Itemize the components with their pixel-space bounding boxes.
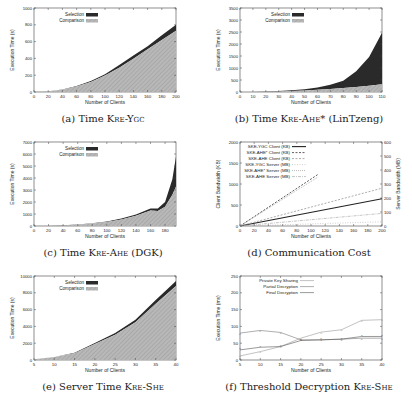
legend-swatch-comparison [292,19,304,23]
x-tick-label: 30 [339,362,344,367]
y-axis-label: Execution Time (s) [9,163,15,205]
series-marker: + [381,317,384,322]
caption-f-prefix: (f) Threshold Decryption [225,381,353,392]
legend-swatch-selection [292,13,304,17]
caption-b-suffix: (LinTzeng) [325,113,383,124]
caption-f-method: Kre-She [353,381,392,392]
legend-swatch-selection [86,147,98,151]
x-tick-label: 200 [378,228,386,233]
x-tick-label: 90 [354,94,359,99]
legend-label-selection: Selection [271,12,290,17]
x-tick-label: 30 [276,94,281,99]
y-tick-label: 1000 [23,6,33,11]
x-tick-label: 5 [239,362,242,367]
caption-c: (c) Time Kre-Ahe (DGK) [0,247,206,258]
y-axis-label: Client Bandwidth (KB) [215,159,221,208]
y2-tick-label: 200 [384,196,392,201]
x-tick-label: 35 [153,362,158,367]
x-tick-label: 160 [147,228,155,233]
y-tick-label: 200 [231,290,239,295]
y-tick-label: 3000 [23,188,33,193]
chart-panel-e: SelectionComparison510152025303540020004… [0,268,206,402]
caption-e: (e) Server Time Kre-She [0,381,206,392]
x-axis-label: Number of Clients [85,233,126,239]
x-tick-label: 40 [266,228,271,233]
x-tick-label: 180 [364,228,372,233]
legend-label: SKE-AHE* Client (KB) [247,150,291,155]
y-tick-label: 2000 [23,200,33,205]
x-tick-label: 60 [75,228,80,233]
chart-e-plot: SelectionComparison510152025303540020004… [0,268,206,378]
x-tick-label: 0 [239,228,242,233]
chart-panel-c: SelectionComparison020406080100120140160… [0,134,206,268]
legend-label: SKE-YGC Server (MB) [245,162,290,167]
x-tick-label: 20 [263,94,268,99]
y-tick-label: 2000 [229,42,239,47]
y-tick-label: 1500 [229,161,239,166]
y-tick-label: 1000 [23,212,33,217]
y2-tick-label: 100 [384,210,392,215]
x-tick-label: 20 [46,94,51,99]
y-tick-label: 3500 [229,6,239,11]
x-tick-label: 10 [250,94,255,99]
y-tick-label: 6000 [23,307,33,312]
y-tick-label: 100 [231,324,239,329]
legend-label-selection: Selection [65,146,84,151]
y-tick-label: 500 [231,78,239,83]
caption-c-suffix: (DGK) [128,247,162,258]
x-tick-label: 200 [172,94,180,99]
y-axis-label: Execution Time (s) [9,297,15,339]
x-tick-label: 20 [46,228,51,233]
x-tick-label: 10 [258,362,263,367]
caption-f: (f) Threshold Decryption Kre-She [206,381,412,392]
y-tick-label: 600 [25,39,33,44]
x-tick-label: 140 [132,228,140,233]
x-tick-label: 0 [33,228,36,233]
y2-tick-label: 0 [384,224,387,229]
y-tick-label: 400 [25,56,33,61]
y-tick-label: 10000 [20,274,32,279]
y-tick-label: 2000 [23,341,33,346]
legend-label-selection: Selection [65,280,84,285]
caption-e-prefix: (e) Server Time [42,381,124,392]
legend-label: Private Key Sharing [259,278,298,283]
x-tick-label: 140 [130,94,138,99]
x-axis-label: Number of Clients [291,367,332,373]
y-tick-label: 800 [25,22,33,27]
legend-label: SKE-AHE Client (KB) [248,156,290,161]
caption-a-prefix: (a) Time [61,113,106,124]
caption-d: (d) Communication Cost [206,247,412,258]
caption-a-method: Kre-Ygc [107,113,145,124]
y-tick-label: 6000 [23,152,33,157]
y2-tick-label: 600 [384,140,392,145]
x-tick-label: 0 [33,94,36,99]
chart-panel-f: ++++++++++++++++********Private Key Shar… [206,268,412,402]
legend-label: SKE-YGC Client (KB) [248,144,291,149]
chart-panel-d: SKE-YGC Client (KB)SKE-AHE* Client (KB)S… [206,134,412,268]
x-tick-label: 110 [379,94,387,99]
legend-swatch-comparison [86,153,98,157]
x-tick-label: 40 [60,94,65,99]
legend-label-comparison: Comparison [265,18,290,23]
y2-tick-label: 300 [384,182,392,187]
y-tick-label: 8000 [23,290,33,295]
y-tick-label: 3000 [229,18,239,23]
x-tick-label: 40 [174,362,179,367]
x-tick-label: 30 [133,362,138,367]
legend-label: Final Decryption [266,290,298,295]
chart-b-plot: SelectionComparison010203040506070809010… [206,0,412,110]
x-tick-label: 160 [350,228,358,233]
x-tick-label: 15 [278,362,283,367]
legend-label: SKE-AHE* Server (MB) [244,168,290,173]
legend-swatch-comparison [86,19,98,23]
legend-label-comparison: Comparison [59,286,84,291]
y-tick-label: 50 [233,341,238,346]
caption-e-method: Kre-She [125,381,164,392]
y-tick-label: 7000 [23,140,33,145]
x-axis-label: Number of Clients [85,367,126,373]
x-axis-label: Number of Clients [85,99,126,105]
legend-label-comparison: Comparison [59,152,84,157]
legend-label-comparison: Comparison [59,18,84,23]
x-tick-label: 35 [359,362,364,367]
x-tick-label: 40 [61,228,66,233]
